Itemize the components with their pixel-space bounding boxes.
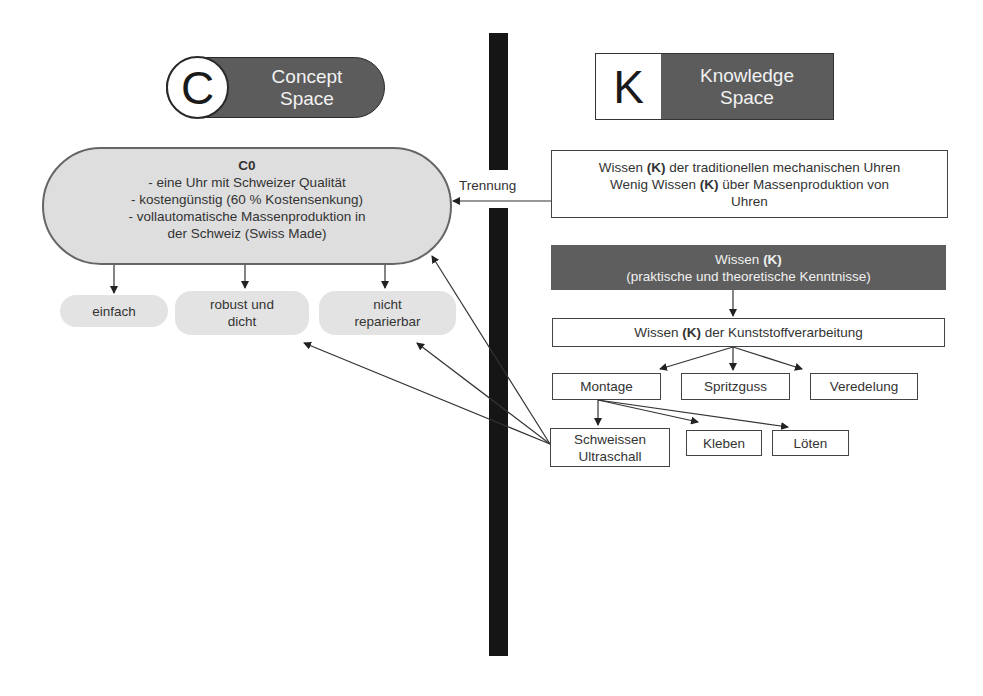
knowledge-node-loeten: Löten (772, 430, 849, 456)
c0-line: der Schweiz (Swiss Made) (44, 225, 450, 242)
plastic-processing-box: Wissen (K) der Kunststoffverarbeitung (552, 318, 945, 347)
knowledge-node-spritzguss: Spritzguss (681, 373, 790, 400)
c0-line: - vollautomatische Massenproduktion in (44, 208, 450, 225)
knowledge-label-line1: Knowledge (700, 65, 794, 87)
existing-knowledge-line3: Uhren (731, 193, 768, 210)
concept-child-nicht-reparierbar: nicht reparierbar (319, 291, 456, 335)
existing-knowledge-line2: Wenig Wissen (K) über Massenproduktion v… (610, 176, 889, 193)
c0-line: - kostengünstig (60 % Kostensenkung) (44, 191, 450, 208)
node-label: Montage (580, 378, 633, 395)
knowledge-node-veredelung: Veredelung (810, 373, 918, 400)
knowledge-letter-badge: K (596, 54, 661, 119)
knowledge-node-schweissen: Schweissen Ultraschall (550, 428, 670, 467)
node-label: Löten (794, 435, 828, 452)
existing-knowledge-box: Wissen (K) der traditionellen mechanisch… (551, 150, 948, 218)
node-label: Kleben (703, 435, 745, 452)
knowledge-space-label: Knowledge Space (661, 54, 833, 119)
c0-concept-node: C0 - eine Uhr mit Schweizer Qualität - k… (42, 147, 452, 265)
separation-label: Trennung (459, 178, 516, 193)
concept-child-label: dicht (228, 313, 257, 330)
concept-child-einfach: einfach (60, 295, 168, 327)
concept-space-label: Concept Space (232, 57, 382, 118)
knowledge-root-line1: Wissen (K) (715, 251, 782, 268)
space-divider-top (489, 33, 508, 170)
node-label: Veredelung (830, 378, 898, 395)
concept-label-line1: Concept (272, 66, 343, 88)
node-label: Ultraschall (578, 448, 641, 465)
c0-line: - eine Uhr mit Schweizer Qualität (44, 174, 450, 191)
c0-title: C0 (44, 157, 450, 174)
concept-child-label: reparierbar (354, 313, 420, 330)
space-divider-bottom (489, 208, 508, 656)
concept-child-robust: robust und dicht (175, 291, 309, 335)
concept-letter: C (181, 65, 214, 111)
node-label: Spritzguss (704, 378, 767, 395)
concept-letter-badge: C (166, 56, 229, 119)
existing-knowledge-line1: Wissen (K) der traditionellen mechanisch… (599, 159, 901, 176)
knowledge-node-montage: Montage (552, 373, 661, 400)
knowledge-label-line2: Space (720, 87, 774, 109)
concept-child-label: einfach (92, 303, 136, 320)
concept-child-label: robust und (210, 296, 274, 313)
knowledge-root-line2: (praktische und theoretische Kenntnisse) (626, 268, 871, 285)
plastic-processing-label: Wissen (K) der Kunststoffverarbeitung (634, 324, 863, 341)
knowledge-letter: K (613, 64, 644, 110)
knowledge-node-kleben: Kleben (686, 430, 762, 456)
concept-label-line2: Space (280, 88, 334, 110)
knowledge-root-box: Wissen (K) (praktische und theoretische … (551, 245, 946, 290)
concept-child-label: nicht (373, 296, 402, 313)
node-label: Schweissen (574, 431, 646, 448)
